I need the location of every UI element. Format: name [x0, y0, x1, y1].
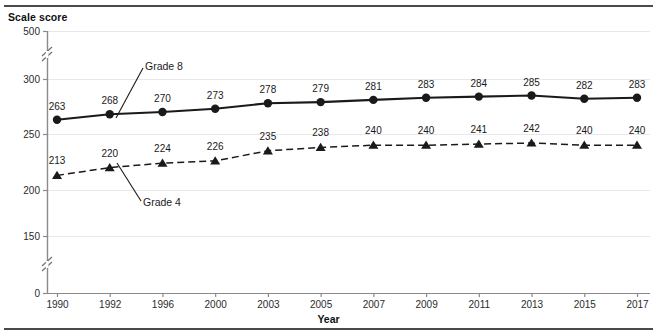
grade-8-label: Grade 8: [145, 60, 183, 72]
grade-8-leader-line: [116, 68, 143, 118]
data-point-marker: [316, 98, 324, 106]
data-point-marker: [211, 105, 219, 113]
data-point-label: 283: [418, 79, 435, 90]
data-point-marker: [263, 146, 273, 154]
data-point-label: 224: [154, 143, 171, 154]
grade-4-leader-line: [117, 163, 141, 201]
data-point-label: 220: [101, 148, 118, 159]
x-tick-label-2011: 2011: [469, 299, 491, 310]
grade-4-label: Grade 4: [143, 196, 181, 208]
data-point-label: 240: [365, 125, 382, 136]
data-series-layer: 2632682702732782792812832842852822832132…: [49, 77, 646, 180]
data-point-label: 240: [629, 125, 646, 136]
data-point-label: 240: [418, 125, 435, 136]
x-tick-label-2009: 2009: [415, 299, 438, 310]
data-point-marker: [158, 108, 166, 116]
x-tick-label-1992: 1992: [99, 299, 122, 310]
data-point-marker: [580, 95, 588, 103]
series-line: [57, 143, 637, 175]
data-point-marker: [422, 94, 430, 102]
data-point-marker: [475, 92, 483, 100]
x-tick-label-2005: 2005: [310, 299, 333, 310]
data-point-label: 241: [470, 124, 487, 135]
chart-figure: Scale score Year 0150200250300500 199019…: [0, 0, 657, 336]
y-tick-label-150: 150: [23, 231, 40, 242]
data-point-label: 240: [576, 125, 593, 136]
data-point-marker: [264, 99, 272, 107]
data-point-marker: [53, 116, 61, 124]
data-point-label: 263: [49, 101, 66, 112]
data-point-label: 226: [207, 141, 224, 152]
y-tick-label-500: 500: [23, 26, 40, 37]
series-line: [57, 96, 637, 120]
data-point-marker: [158, 159, 168, 167]
x-tick-label-1996: 1996: [152, 299, 175, 310]
data-point-label: 281: [365, 81, 382, 92]
x-tick-label-2007: 2007: [363, 299, 386, 310]
line-chart-plot: 0150200250300500 19901992199620002003200…: [0, 0, 657, 336]
data-point-label: 283: [629, 79, 646, 90]
y-tick-label-300: 300: [23, 74, 40, 85]
data-point-marker: [369, 96, 377, 104]
y-tick-label-0: 0: [34, 288, 40, 299]
y-tick-label-250: 250: [23, 129, 40, 140]
x-tick-label-2000: 2000: [205, 299, 228, 310]
data-point-label: 282: [576, 80, 593, 91]
data-point-marker: [527, 91, 535, 99]
x-tick-label-2003: 2003: [257, 299, 280, 310]
x-tick-label-2017: 2017: [626, 299, 649, 310]
data-point-label: 284: [470, 78, 487, 89]
data-point-label: 278: [260, 84, 277, 95]
data-point-label: 268: [101, 95, 118, 106]
data-point-label: 273: [207, 90, 224, 101]
series-grade-4: 213220224226235238240240241242240240: [49, 123, 646, 179]
data-point-label: 270: [154, 93, 171, 104]
x-tick-label-1990: 1990: [46, 299, 69, 310]
data-point-label: 235: [260, 131, 277, 142]
data-point-label: 242: [523, 123, 540, 134]
series-grade-8: 263268270273278279281283284285282283: [49, 77, 646, 124]
y-tick-label-200: 200: [23, 185, 40, 196]
x-tick-label-2015: 2015: [574, 299, 597, 310]
data-point-label: 238: [312, 127, 329, 138]
data-point-marker: [633, 94, 641, 102]
data-point-label: 279: [312, 83, 329, 94]
gridlines: [47, 32, 650, 237]
x-axis: 1990199219962000200320052007200920112013…: [46, 293, 650, 310]
data-point-label: 285: [523, 77, 540, 88]
data-point-marker: [106, 110, 114, 118]
data-point-label: 213: [49, 155, 66, 166]
x-tick-label-2013: 2013: [521, 299, 544, 310]
